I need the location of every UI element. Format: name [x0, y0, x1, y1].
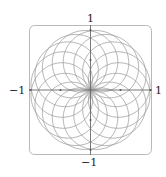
axis-marker-dot — [150, 89, 152, 91]
axis-marker-dot — [90, 29, 92, 31]
axis-marker-dot — [90, 119, 92, 121]
y-tick-bottom: −1 — [81, 157, 97, 168]
axis-marker-dot — [90, 149, 92, 151]
axis-marker-dot — [120, 89, 122, 91]
x-tick-left: −1 — [9, 85, 25, 96]
x-tick-right: 1 — [155, 85, 162, 96]
axis-marker-dot — [60, 89, 62, 91]
axis-marker-dot — [30, 89, 32, 91]
y-tick-top: 1 — [87, 13, 94, 24]
axis-marker-dot — [90, 59, 92, 61]
